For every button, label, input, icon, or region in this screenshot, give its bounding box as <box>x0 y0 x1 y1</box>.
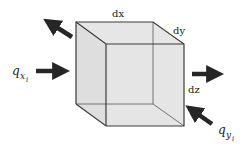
label-dy: dy <box>173 25 185 36</box>
label-qx: q x i <box>12 64 28 84</box>
svg-text:q: q <box>12 64 20 78</box>
cube-diagram: dx dy dz q x i q y i <box>0 0 250 147</box>
svg-text:x: x <box>20 71 25 81</box>
svg-text:q: q <box>218 123 226 137</box>
svg-text:y: y <box>225 130 232 140</box>
cube <box>76 22 184 126</box>
arrow-inflow-y-icon <box>192 110 212 124</box>
svg-text:i: i <box>232 135 234 143</box>
label-dz: dz <box>188 84 200 95</box>
front-face <box>106 44 184 126</box>
svg-text:i: i <box>26 76 28 84</box>
label-dx: dx <box>112 8 124 19</box>
label-qy: q y i <box>218 123 234 143</box>
arrow-outflow-upper-left-icon <box>50 23 72 37</box>
